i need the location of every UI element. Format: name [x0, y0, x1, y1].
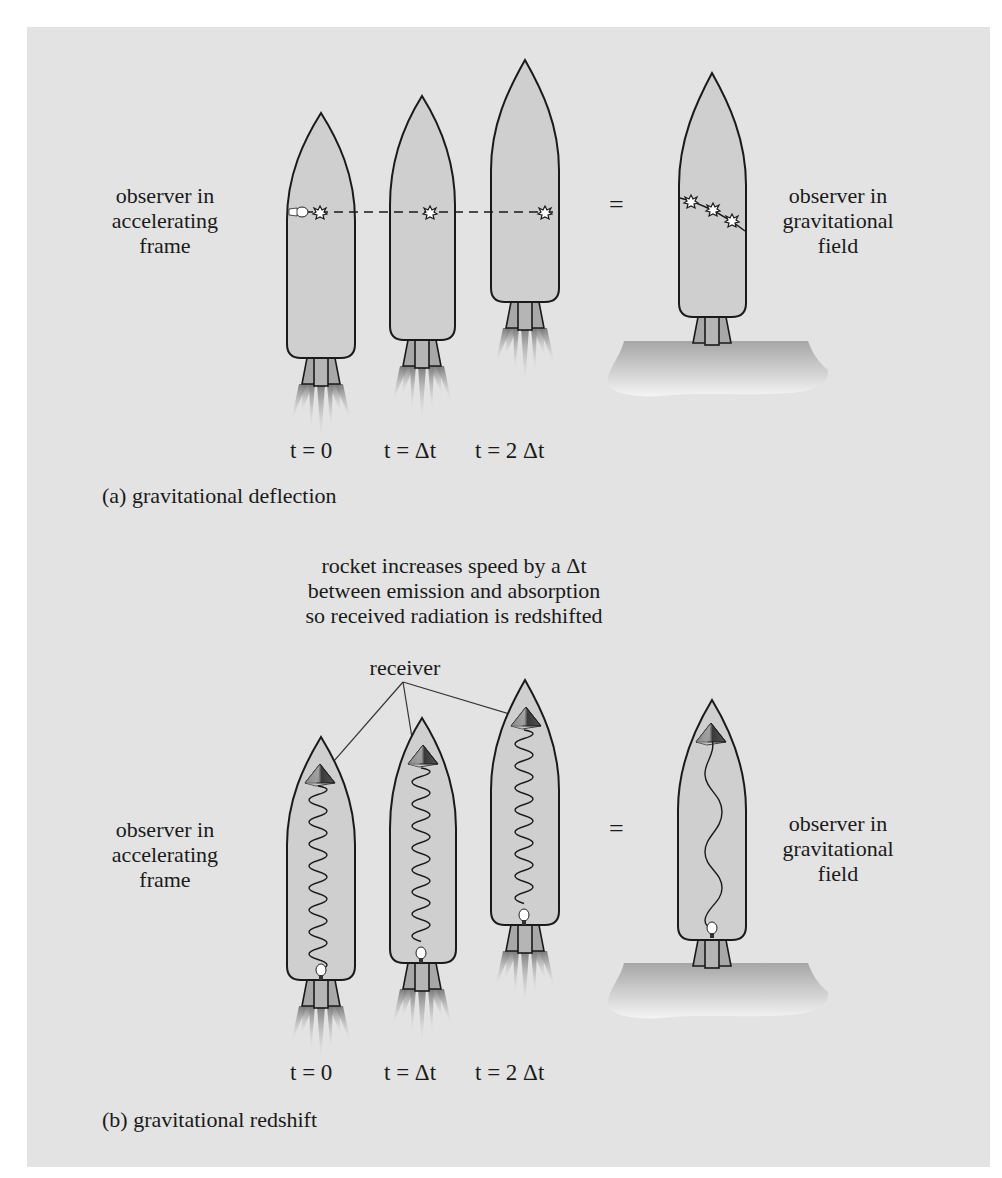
annotation-line: rocket increases speed by a Δt [244, 553, 664, 578]
rocket-a-t1 [390, 96, 455, 424]
label-line: observer in [100, 183, 230, 208]
rocket-b-gravity [678, 700, 746, 968]
label-line: gravitational [763, 836, 913, 861]
rocket-b-t2 [491, 680, 559, 1009]
caption-b: (b) gravitational redshift [102, 1107, 317, 1133]
ground-platform [608, 341, 828, 397]
rocket-b-t0 [287, 737, 355, 1064]
time-label-t1: t = Δt [384, 1060, 436, 1086]
equals-sign-b: = [609, 814, 624, 844]
panel-b [287, 680, 828, 1064]
label-line: observer in [100, 817, 230, 842]
time-label-t0: t = 0 [290, 1060, 332, 1086]
label-line: observer in [763, 183, 913, 208]
label-accelerating-frame-b: observer in accelerating frame [100, 817, 230, 892]
label-line: frame [100, 233, 230, 258]
label-line: accelerating [100, 842, 230, 867]
annotation-line: between emission and absorption [244, 578, 664, 603]
label-line: observer in [763, 811, 913, 836]
rocket-b-t1 [390, 718, 456, 1047]
rocket-a-t0 [287, 113, 355, 442]
receiver-label: receiver [360, 655, 450, 680]
rocket-a-gravity [679, 73, 746, 345]
annotation-redshift: rocket increases speed by a Δt between e… [244, 553, 664, 628]
label-line: field [763, 861, 913, 886]
label-gravitational-field-b: observer in gravitational field [763, 811, 913, 886]
time-label-t2: t = 2 Δt [475, 1060, 544, 1086]
label-line: gravitational [763, 208, 913, 233]
equals-sign-a: = [609, 190, 624, 220]
time-label-t1: t = Δt [384, 438, 436, 464]
rocket-a-t2 [491, 60, 559, 386]
label-line: field [763, 233, 913, 258]
time-label-t0: t = 0 [290, 438, 332, 464]
label-line: accelerating [100, 208, 230, 233]
ground-platform [608, 963, 828, 1019]
time-label-t2: t = 2 Δt [475, 438, 544, 464]
annotation-line: so received radiation is redshifted [244, 603, 664, 628]
caption-a: (a) gravitational deflection [102, 483, 337, 509]
flashlight-icon [289, 207, 308, 217]
panel-a [287, 60, 828, 442]
label-line: frame [100, 867, 230, 892]
label-accelerating-frame-a: observer in accelerating frame [100, 183, 230, 258]
label-gravitational-field-a: observer in gravitational field [763, 183, 913, 258]
